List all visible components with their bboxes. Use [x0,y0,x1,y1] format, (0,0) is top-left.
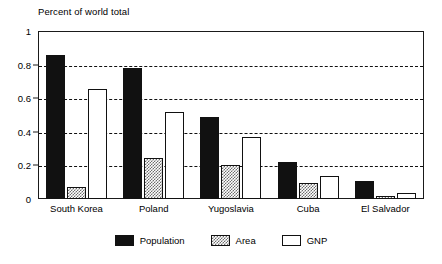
legend-item-gnp[interactable]: GNP [282,235,328,246]
bar-group-el-salvador [355,31,416,199]
bar-area-yugoslavia[interactable] [221,165,240,199]
legend-label-gnp: GNP [307,235,328,246]
bar-area-poland[interactable] [144,158,163,199]
x-tick-label: South Korea [50,203,103,214]
x-tick-label: El Salvador [361,203,410,214]
x-tick-label: Yugoslavia [208,203,254,214]
legend-item-area[interactable]: Area [211,235,256,246]
bar-group-south-korea [46,31,107,199]
bar-gnp-poland[interactable] [165,112,184,199]
bar-population-south-korea[interactable] [46,55,65,199]
y-tick-label: 0.4 [18,126,31,137]
bar-group-poland [123,31,184,199]
bar-population-yugoslavia[interactable] [200,117,219,199]
chart-title: Percent of world total [38,6,129,17]
legend-swatch-area [211,235,230,246]
bar-gnp-cuba[interactable] [320,176,339,199]
y-tick-label: 0.8 [18,59,31,70]
x-tick-label: Poland [139,203,169,214]
bar-population-poland[interactable] [123,68,142,199]
bar-gnp-south-korea[interactable] [88,89,107,199]
bar-area-el-salvador[interactable] [376,196,395,199]
bar-gnp-el-salvador[interactable] [397,193,416,199]
x-axis: South KoreaPolandYugoslaviaCubaEl Salvad… [38,201,424,219]
legend-swatch-gnp [282,235,301,246]
bar-gnp-yugoslavia[interactable] [242,137,261,199]
legend-label-area: Area [236,235,256,246]
bar-group-cuba [278,31,339,199]
bar-chart-figure: Percent of world total 00.20.40.60.81 So… [0,0,442,264]
y-tick-label: 0.6 [18,93,31,104]
x-tick-label: Cuba [297,203,320,214]
legend-label-population: Population [140,235,185,246]
y-tick-label: 0 [26,194,31,205]
bar-population-cuba[interactable] [278,162,297,199]
bar-area-cuba[interactable] [299,183,318,199]
legend-swatch-population [115,235,134,246]
bar-population-el-salvador[interactable] [355,181,374,199]
bar-area-south-korea[interactable] [67,187,86,199]
y-tick-label: 1 [26,26,31,37]
bars-layer [38,31,424,199]
y-axis: 00.20.40.60.81 [0,26,38,201]
chart-legend: PopulationAreaGNP [0,235,442,246]
legend-item-population[interactable]: Population [115,235,185,246]
bar-group-yugoslavia [200,31,261,199]
y-tick-label: 0.2 [18,160,31,171]
